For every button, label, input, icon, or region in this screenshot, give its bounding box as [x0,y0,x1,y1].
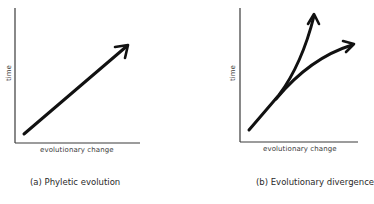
panel-a-lineage-arrow-shaft [24,46,127,134]
panel-b-x-axis-label: evolutionary change [263,145,337,153]
panel-b [240,8,358,142]
panel-a [15,8,140,143]
panel-a-y-axis-label: time [5,62,13,84]
panel-b-branch-steep-shaft [249,16,314,130]
panel-a-caption: (a) Phyletic evolution [30,177,120,187]
panel-b-caption: (b) Evolutionary divergence [256,177,374,187]
panel-a-x-axis-label: evolutionary change [40,146,114,154]
panel-b-y-axis-label: time [229,62,237,84]
panel-b-branch-shallow-shaft [276,45,352,99]
